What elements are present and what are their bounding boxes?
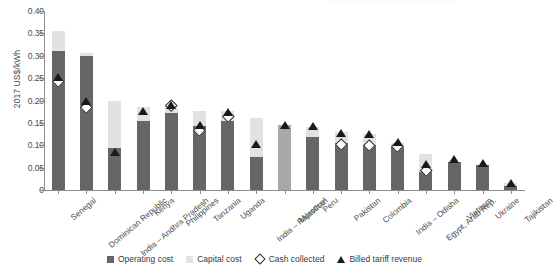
x-category-label: Kenya [152,196,176,218]
legend-square-icon [107,256,114,263]
marker-billed-tariff-revenue [195,121,205,129]
y-tick: 0.40 [0,11,44,12]
y-tick: 0.15 [0,123,44,124]
legend-label: Billed tariff revenue [349,254,422,264]
x-category-label: India – Andhra Pradesh [139,196,210,258]
bar-segment-combined-cost[interactable] [278,125,291,190]
x-tick-mark [171,190,172,194]
y-tick: 0.20 [0,101,44,102]
legend-label: Capital cost [197,254,241,264]
marker-billed-tariff-revenue [110,148,120,156]
marker-billed-tariff-revenue [251,140,261,148]
plot-area [44,11,525,190]
bar-group[interactable] [221,11,234,190]
y-tick: 0.30 [0,56,44,57]
legend-diamond-icon [254,253,265,264]
chart-legend: Operating costCapital costCash collected… [0,254,529,264]
x-tick-mark [454,190,455,194]
y-tick: 0.25 [0,78,44,79]
bar-segment-operating-cost[interactable] [306,137,319,190]
bar-group[interactable] [108,11,121,190]
bar-group[interactable] [52,11,65,190]
marker-billed-tariff-revenue [308,122,318,130]
x-tick-mark [58,190,59,194]
marker-billed-tariff-revenue [506,179,516,187]
bar-group[interactable] [137,11,150,190]
legend-triangle-icon [337,256,345,263]
x-tick-mark [369,190,370,194]
marker-billed-tariff-revenue [223,108,233,116]
x-tick-mark [483,190,484,194]
x-tick-mark [313,190,314,194]
x-tick-mark [341,190,342,194]
marker-billed-tariff-revenue [280,121,290,129]
x-tick-mark [115,190,116,194]
bar-group[interactable] [335,11,348,190]
marker-billed-tariff-revenue [166,101,176,109]
bar-group[interactable] [363,11,376,190]
bar-segment-operating-cost[interactable] [250,157,263,190]
bar-group[interactable] [193,11,206,190]
marker-billed-tariff-revenue [138,107,148,115]
x-category-label: Uganda [239,196,267,221]
x-tick-mark [285,190,286,194]
legend-item[interactable]: Cash collected [255,254,325,264]
legend-item[interactable]: Capital cost [186,254,241,264]
marker-billed-tariff-revenue [421,160,431,168]
bar-segment-operating-cost[interactable] [448,162,461,190]
y-tick: 0.05 [0,168,44,169]
bar-segment-operating-cost[interactable] [391,146,404,190]
bar-group[interactable] [278,11,291,190]
bar-segment-capital-cost[interactable] [108,101,121,148]
x-tick-mark [143,190,144,194]
bar-group[interactable] [476,11,489,190]
y-tick: 0 [0,190,44,191]
bar-group[interactable] [165,11,178,190]
x-tick-mark [228,190,229,194]
marker-billed-tariff-revenue [364,130,374,138]
bar-segment-operating-cost[interactable] [137,121,150,190]
bar-segment-operating-cost[interactable] [165,113,178,190]
x-tick-mark [86,190,87,194]
marker-billed-tariff-revenue [81,97,91,105]
bar-segment-operating-cost[interactable] [52,51,65,190]
bar-segment-operating-cost[interactable] [363,145,376,190]
legend-item[interactable]: Billed tariff revenue [337,254,422,264]
y-tick: 0.35 [0,33,44,34]
bar-group[interactable] [250,11,263,190]
x-category-label: Senegal [69,196,98,222]
x-tick-mark [200,190,201,194]
x-category-label: Pakistan [352,196,382,223]
bar-segment-operating-cost[interactable] [221,121,234,190]
marker-billed-tariff-revenue [393,138,403,146]
legend-label: Cash collected [269,254,325,264]
x-tick-mark [398,190,399,194]
x-category-label: Tajikistan [523,196,554,225]
bar-segment-capital-cost[interactable] [250,118,263,157]
x-tick-mark [511,190,512,194]
x-tick-mark [426,190,427,194]
bar-group[interactable] [80,11,93,190]
legend-label: Operating cost [118,254,173,264]
bar-group[interactable] [504,11,517,190]
bar-group[interactable] [391,11,404,190]
bar-segment-operating-cost[interactable] [335,143,348,190]
x-category-label: Ukraine [493,196,520,221]
marker-billed-tariff-revenue [336,129,346,137]
bar-group[interactable] [419,11,432,190]
x-tick-mark [256,190,257,194]
x-category-label: Colombia [381,196,413,225]
bar-segment-operating-cost[interactable] [476,165,489,190]
legend-square-icon [186,256,193,263]
bar-segment-operating-cost[interactable] [80,56,93,190]
legend-item[interactable]: Operating cost [107,254,173,264]
bar-segment-capital-cost[interactable] [52,31,65,51]
top-clipped-artifact [330,0,455,3]
bar-group[interactable] [306,11,319,190]
marker-billed-tariff-revenue [53,73,63,81]
marker-billed-tariff-revenue [449,155,459,163]
bar-group[interactable] [448,11,461,190]
marker-billed-tariff-revenue [478,159,488,167]
y-tick: 0.10 [0,145,44,146]
